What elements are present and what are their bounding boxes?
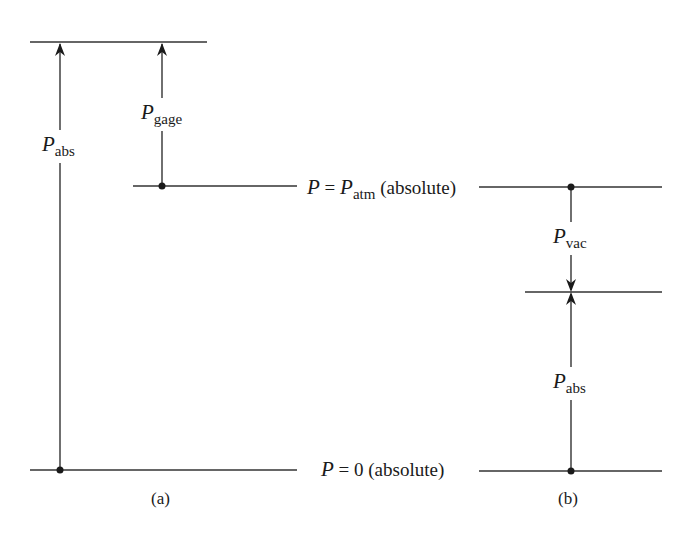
p-symbol: P xyxy=(553,224,566,248)
p-symbol: P xyxy=(42,132,55,156)
p-abs-label-b: Pabs xyxy=(553,367,586,400)
atm-point-dot-a xyxy=(159,183,166,190)
zero-level-label: P = 0 (absolute) xyxy=(321,459,444,480)
p-symbol: P xyxy=(141,100,154,124)
zero-text: = 0 (absolute) xyxy=(334,459,444,480)
atm-point-dot-b xyxy=(568,184,575,191)
subscript: atm xyxy=(353,186,376,202)
p-symbol: P xyxy=(553,369,566,393)
absolute-suffix: (absolute) xyxy=(375,177,456,198)
zero-point-dot-b xyxy=(568,468,575,475)
caption-b: (b) xyxy=(558,490,578,507)
caption-a: (a) xyxy=(151,490,170,507)
p-gage-label: Pgage xyxy=(141,98,182,131)
atm-level-label: P = Patm (absolute) xyxy=(307,177,456,202)
subscript: vac xyxy=(566,235,587,251)
p-vac-label: Pvac xyxy=(553,222,587,255)
equals: = xyxy=(320,177,340,198)
subscript: abs xyxy=(55,143,75,159)
subscript: gage xyxy=(154,111,182,127)
p-symbol: P xyxy=(340,175,353,199)
p-symbol: P xyxy=(307,175,320,199)
zero-point-dot-a xyxy=(57,467,64,474)
subscript: abs xyxy=(566,380,586,396)
p-symbol: P xyxy=(321,457,334,481)
p-abs-label-a: Pabs xyxy=(42,130,75,163)
